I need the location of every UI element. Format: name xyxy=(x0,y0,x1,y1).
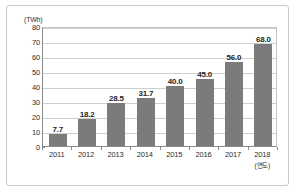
x-axis-tick-mark xyxy=(160,147,161,150)
y-axis-tick-label: 0 xyxy=(18,143,40,152)
bar xyxy=(107,103,125,146)
figure-frame: (TWh) 80706050403020100 7.718.228.531.74… xyxy=(6,5,289,186)
bar-value-label: 28.5 xyxy=(109,94,124,103)
plot-area: 7.718.228.531.740.045.056.068.0 xyxy=(42,27,277,147)
bar xyxy=(225,62,243,146)
bar-group: 56.0 xyxy=(219,28,248,146)
bar-value-label: 56.0 xyxy=(227,53,242,62)
x-axis-tick-label: 2012 xyxy=(78,150,94,159)
bar-value-label: 68.0 xyxy=(256,35,271,44)
x-axis-tick-label: 2015 xyxy=(166,150,182,159)
bar-group: 40.0 xyxy=(161,28,190,146)
x-axis-unit-label: (연도) xyxy=(254,160,270,170)
bar xyxy=(254,44,272,146)
x-axis-tick-mark xyxy=(42,147,43,150)
bar-group: 7.7 xyxy=(43,28,72,146)
x-axis-tick-mark xyxy=(101,147,102,150)
x-axis-tick-label: 2016 xyxy=(196,150,212,159)
x-axis-tick-label: 2018(연도) xyxy=(254,150,270,170)
bar-group: 18.2 xyxy=(72,28,101,146)
bar xyxy=(49,134,67,146)
y-axis-tick-label: 10 xyxy=(18,128,40,137)
bar-value-label: 31.7 xyxy=(138,89,153,98)
bar-chart: (TWh) 80706050403020100 7.718.228.531.74… xyxy=(7,6,290,187)
y-axis-tick-label: 40 xyxy=(18,83,40,92)
x-axis-tick-mark xyxy=(248,147,249,150)
x-axis-tick-labels: 20112012201320142015201620172018(연도) xyxy=(42,150,277,180)
y-axis-tick-label: 80 xyxy=(18,23,40,32)
bar-value-label: 7.7 xyxy=(52,125,63,134)
y-axis-tick-label: 30 xyxy=(18,98,40,107)
y-axis-tick-label: 50 xyxy=(18,68,40,77)
bar-group: 68.0 xyxy=(249,28,278,146)
x-axis-tick-mark xyxy=(277,147,278,150)
x-axis-tick-mark xyxy=(71,147,72,150)
bar-value-label: 40.0 xyxy=(168,77,183,86)
bar xyxy=(78,119,96,146)
y-axis-tick-label: 70 xyxy=(18,38,40,47)
bar xyxy=(137,98,155,146)
y-axis-tick-label: 60 xyxy=(18,53,40,62)
bar-value-label: 18.2 xyxy=(80,110,95,119)
y-axis-tick-label: 20 xyxy=(18,113,40,122)
x-axis-tick-mark xyxy=(218,147,219,150)
x-axis-tick-mark xyxy=(130,147,131,150)
bar-group: 28.5 xyxy=(102,28,131,146)
x-axis-tick-label: 2017 xyxy=(225,150,241,159)
x-axis-tick-label: 2013 xyxy=(107,150,123,159)
bar-group: 45.0 xyxy=(190,28,219,146)
x-axis-tick-mark xyxy=(189,147,190,150)
bar-value-label: 45.0 xyxy=(197,70,212,79)
y-axis-tick-labels: 80706050403020100 xyxy=(15,27,40,147)
bar xyxy=(196,79,214,147)
bar-group: 31.7 xyxy=(131,28,160,146)
bar xyxy=(166,86,184,146)
x-axis-tick-label: 2011 xyxy=(49,150,64,159)
x-axis-tick-label: 2014 xyxy=(137,150,153,159)
